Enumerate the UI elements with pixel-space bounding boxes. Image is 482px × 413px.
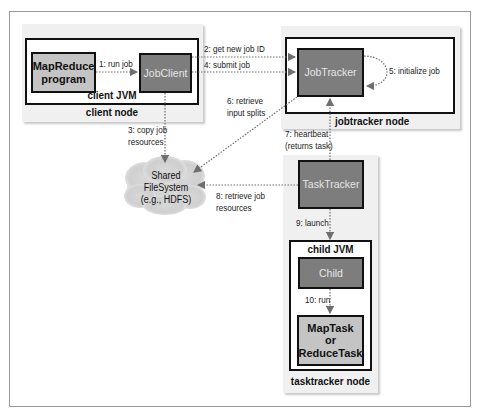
step-3-label-b: resources	[128, 136, 164, 148]
step-9-label: 9: launch	[296, 217, 329, 229]
step-5-label: 5: initialize job	[389, 65, 440, 77]
shared-filesystem-label: Shared FileSystem (e.g., HDFS)	[129, 170, 203, 206]
step-3-label-a: 3: copy job	[128, 124, 167, 136]
shared-fs-line3: (e.g., HDFS)	[129, 194, 203, 206]
shared-fs-line1: Shared	[129, 170, 203, 182]
step-8-label-b: resources	[216, 202, 252, 214]
step-6-label-b: input splits	[227, 107, 265, 119]
step-4-label: 4: submit job	[204, 59, 250, 71]
step-7-label-a: 7: heartbeat	[285, 128, 328, 140]
step-8-label-a: 8: retrieve job	[216, 190, 265, 202]
step-2-label: 2: get new job ID	[204, 43, 265, 55]
step-6-label-a: 6: retrieve	[227, 95, 263, 107]
step-7-label-b: (returns task)	[285, 140, 333, 152]
step-1-label: 1: run job	[99, 58, 133, 70]
step-10-label: 10: run	[305, 294, 330, 306]
shared-fs-line2: FileSystem	[129, 182, 203, 194]
arrow-initialize-job	[364, 56, 387, 86]
